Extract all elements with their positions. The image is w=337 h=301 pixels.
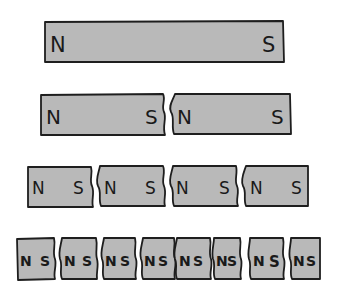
row-whole-magnet: N S: [45, 21, 284, 62]
south-pole-label: S: [271, 105, 284, 129]
north-pole-label: N: [32, 178, 45, 198]
south-pole-label: S: [145, 105, 158, 129]
south-pole-label: S: [291, 178, 302, 198]
north-pole-label: N: [50, 33, 66, 57]
north-pole-label: N: [104, 178, 117, 198]
north-pole-label: N: [144, 253, 156, 269]
north-pole-label: N: [105, 253, 117, 269]
north-pole-label: N: [46, 105, 61, 129]
south-pole-label: S: [227, 253, 237, 269]
south-pole-label: S: [40, 253, 50, 269]
south-pole-label: S: [120, 253, 130, 269]
south-pole-label: S: [193, 253, 203, 269]
north-pole-label: N: [20, 253, 32, 269]
row-quarters: N S N S N S N S: [28, 166, 308, 207]
north-pole-label: N: [250, 178, 263, 198]
south-pole-label: S: [262, 33, 275, 57]
south-pole-label: S: [269, 253, 280, 271]
south-pole-label: S: [158, 253, 168, 269]
north-pole-label: N: [179, 253, 191, 269]
north-pole-label: N: [293, 253, 305, 269]
south-pole-label: S: [306, 253, 316, 269]
south-pole-label: S: [145, 178, 156, 198]
row-eighths: N S N S N S N S N S N S N S N S: [17, 238, 320, 280]
magnet-diagram: N S N S N S N S N S N S N S N S N S N S: [0, 0, 337, 301]
row-halves: N S N S: [41, 94, 291, 135]
north-pole-label: N: [64, 253, 76, 269]
south-pole-label: S: [219, 178, 230, 198]
south-pole-label: S: [82, 253, 92, 269]
magnet-piece: [45, 21, 284, 62]
north-pole-label: N: [216, 253, 228, 269]
north-pole-label: N: [253, 253, 265, 269]
north-pole-label: N: [176, 178, 189, 198]
south-pole-label: S: [73, 178, 84, 198]
north-pole-label: N: [177, 105, 192, 129]
